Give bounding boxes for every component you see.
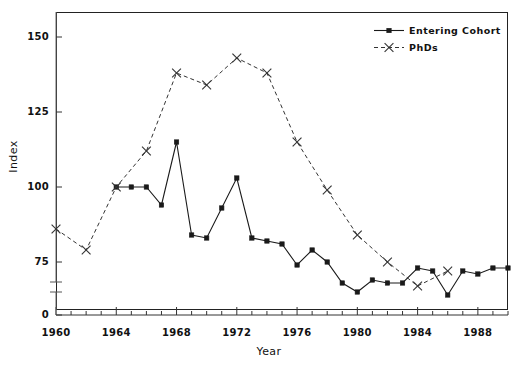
x-tick-label: 1964 [96, 327, 136, 338]
x-tick-label: 1960 [36, 327, 76, 338]
series-phds [52, 54, 453, 291]
y-tick-label: 0 [19, 309, 49, 320]
x-tick-label: 1972 [217, 327, 257, 338]
y-tick-label: 125 [19, 106, 49, 117]
y-axis-title: Index [7, 127, 20, 187]
axis-ticks [50, 12, 508, 315]
x-axis-title: Year [239, 345, 299, 358]
legend-label: Entering Cohort [406, 25, 501, 36]
x-tick-label: 1976 [277, 327, 317, 338]
legend-item-entering-cohort: Entering Cohort [372, 22, 502, 39]
x-tick-label: 1988 [458, 327, 498, 338]
legend-item-phds: PhDs [372, 39, 502, 56]
y-tick-label: 75 [19, 256, 49, 267]
legend-swatch-solid-square [372, 24, 406, 38]
y-tick-label: 100 [19, 181, 49, 192]
x-tick-label: 1984 [398, 327, 438, 338]
legend-label: PhDs [406, 42, 438, 53]
chart-legend: Entering Cohort PhDs [372, 22, 502, 56]
x-tick-label: 1980 [337, 327, 377, 338]
chart-screenshot: 150125100750 196019641968197219761980198… [0, 0, 519, 372]
legend-swatch-dashed-x [372, 41, 406, 55]
y-tick-label: 150 [19, 31, 49, 42]
series-layer [52, 54, 511, 298]
x-tick-label: 1968 [157, 327, 197, 338]
